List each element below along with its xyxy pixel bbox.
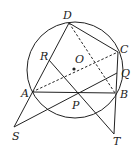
label-a: A: [20, 87, 29, 100]
label-t: T: [113, 135, 122, 148]
segment-sq: [14, 73, 117, 127]
segment-ds: [14, 23, 69, 127]
label-q: Q: [121, 67, 130, 80]
label-s: S: [12, 130, 20, 143]
label-c: C: [120, 43, 129, 56]
label-p: P: [71, 99, 80, 112]
label-b: B: [119, 88, 128, 101]
geometry-diagram: D C Q B A P R O S T: [0, 0, 137, 149]
label-d: D: [62, 9, 72, 22]
label-o: O: [75, 53, 84, 66]
segment-ab: [32, 92, 115, 93]
segment-rt: [49, 60, 114, 134]
center-point-o: [72, 67, 75, 70]
label-r: R: [39, 50, 48, 63]
